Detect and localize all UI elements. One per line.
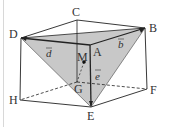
label-f: F — [150, 83, 157, 97]
edge-he — [20, 100, 91, 107]
vector-d-label: d — [46, 47, 52, 59]
label-a: A — [93, 45, 102, 59]
label-m: M — [77, 50, 88, 64]
cube-diagram: C D B A G H F E M d b e — [0, 0, 169, 127]
label-b: B — [149, 21, 157, 35]
label-d: D — [9, 27, 18, 41]
label-c: C — [72, 5, 80, 19]
vector-b-label: b — [118, 38, 124, 50]
edge-dh — [20, 38, 21, 100]
vector-e-label: e — [95, 70, 100, 82]
label-g: G — [74, 82, 83, 96]
label-h: H — [9, 93, 18, 107]
edge-cb — [77, 20, 145, 28]
edge-bf — [145, 28, 147, 89]
label-e: E — [87, 109, 94, 123]
